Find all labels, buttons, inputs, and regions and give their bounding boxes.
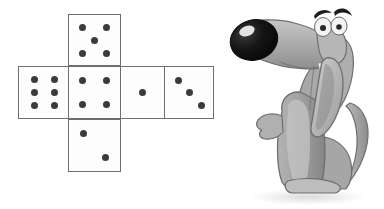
die-face-far-right [164,66,214,119]
pip [51,89,58,96]
die-net [0,0,230,209]
pip [51,102,58,109]
pip [103,50,110,57]
die-face-center [68,66,121,119]
pupil-right [336,24,342,30]
pip [31,89,38,96]
pip [79,77,86,84]
pip [79,24,86,31]
pip [175,77,182,84]
pip [198,102,205,109]
cartoon-dog-illustration [222,0,384,209]
pip [102,154,109,161]
pupil-left [320,25,326,31]
eyebrow-right [334,9,352,16]
die-face-bottom [68,119,121,172]
pip [103,24,110,31]
die-face-left [18,66,71,119]
pip [31,102,38,109]
die-face-right [120,66,165,119]
pip [103,101,110,108]
scene-canvas [0,0,384,209]
pip [79,101,86,108]
pip [80,130,87,137]
pip [51,76,58,83]
pip [186,89,193,96]
front-paw [257,114,283,139]
pip [91,37,98,44]
pip [31,76,38,83]
pip [139,89,146,96]
pip [79,50,86,57]
die-face-top [68,14,121,66]
pip [103,77,110,84]
